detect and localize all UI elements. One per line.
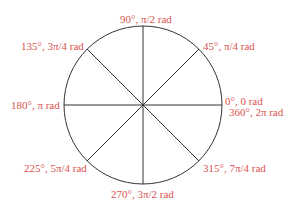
- label-315: 315°, 7π/4 rad: [203, 162, 266, 174]
- label-135: 135°, 3π/4 rad: [21, 40, 84, 52]
- label-90: 90°, π/2 rad: [120, 13, 172, 25]
- label-225: 225°, 5π/4 rad: [24, 162, 87, 174]
- label-270: 270°, 3π/2 rad: [111, 188, 174, 200]
- label-45: 45°, π/4 rad: [203, 40, 255, 52]
- label-360: 360°, 2π rad: [229, 106, 283, 118]
- label-180: 180°, π rad: [11, 99, 60, 111]
